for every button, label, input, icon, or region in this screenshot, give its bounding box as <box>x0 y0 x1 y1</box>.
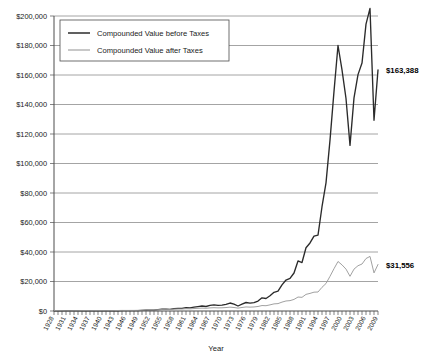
x-tick-label: 1973 <box>222 315 235 332</box>
x-tick-label: 1943 <box>102 315 115 332</box>
y-tick-label: $100,000 <box>16 159 47 168</box>
y-tick-label: $200,000 <box>16 12 47 21</box>
x-tick-label: 1967 <box>198 315 211 332</box>
x-tick-label: 1928 <box>42 315 55 332</box>
x-tick-label: 1982 <box>258 315 271 332</box>
y-tick-label: $40,000 <box>20 248 47 257</box>
x-axis-ticks <box>54 311 378 315</box>
x-tick-label: 1931 <box>54 315 67 332</box>
chart-container: $0$20,000$40,000$60,000$80,000$100,000$1… <box>0 0 433 363</box>
y-tick-label: $80,000 <box>20 189 47 198</box>
x-axis-title: Year <box>208 344 224 353</box>
x-tick-label: 2000 <box>330 315 343 332</box>
x-tick-label: 1934 <box>66 315 79 332</box>
legend-label-before-taxes: Compounded Value before Taxes <box>97 29 209 38</box>
line-chart: $0$20,000$40,000$60,000$80,000$100,000$1… <box>0 0 433 363</box>
y-tick-label: $140,000 <box>16 100 47 109</box>
legend: Compounded Value before Taxes Compounded… <box>60 20 229 61</box>
x-tick-label: 1955 <box>150 315 163 332</box>
x-tick-label: 2003 <box>342 315 355 332</box>
x-tick-label: 1940 <box>90 315 103 332</box>
y-axis-ticks <box>50 16 54 311</box>
annotation-before-taxes: $163,388 <box>386 66 419 75</box>
y-tick-label: $160,000 <box>16 71 47 80</box>
y-axis-tick-labels: $0$20,000$40,000$60,000$80,000$100,000$1… <box>16 12 47 316</box>
legend-label-after-taxes: Compounded Value after Taxes <box>97 46 203 55</box>
x-tick-label: 1985 <box>270 315 283 332</box>
x-tick-label: 1958 <box>162 315 175 332</box>
series-line-after-taxes <box>54 256 378 310</box>
x-tick-label: 1949 <box>126 315 139 332</box>
x-tick-label: 1979 <box>246 315 259 332</box>
x-tick-label: 1991 <box>294 315 307 332</box>
annotation-after-taxes: $31,556 <box>386 261 415 270</box>
y-tick-label: $180,000 <box>16 41 47 50</box>
x-tick-label: 1988 <box>282 315 295 332</box>
y-tick-label: $60,000 <box>20 218 47 227</box>
y-tick-label: $20,000 <box>20 277 47 286</box>
x-tick-label: 1964 <box>186 315 199 332</box>
x-axis-tick-labels: 1928193119341937194019431946194919521955… <box>42 315 379 332</box>
x-tick-label: 1952 <box>138 315 151 332</box>
x-tick-label: 1994 <box>306 315 319 332</box>
x-tick-label: 2009 <box>366 315 379 332</box>
x-tick-label: 1976 <box>234 315 247 332</box>
y-tick-label: $0 <box>39 307 47 316</box>
x-tick-label: 1970 <box>210 315 223 332</box>
x-tick-label: 2006 <box>354 315 367 332</box>
x-tick-label: 1937 <box>78 315 91 332</box>
x-tick-label: 1961 <box>174 315 187 332</box>
x-tick-label: 1997 <box>318 315 331 332</box>
y-tick-label: $120,000 <box>16 130 47 139</box>
x-tick-label: 1946 <box>114 315 127 332</box>
